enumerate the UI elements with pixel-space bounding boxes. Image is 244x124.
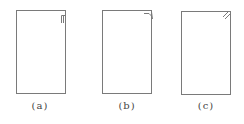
panel-c-label: (c)	[198, 100, 214, 111]
panel-a	[17, 11, 66, 94]
panel-b-rectangle	[103, 11, 152, 94]
panel-a-rectangle	[17, 11, 66, 94]
panel-c-diagonal-strokes-icon	[223, 12, 230, 19]
panel-a-label: (a)	[32, 100, 49, 111]
panel-c	[182, 12, 231, 95]
panel-a-folded-tab-icon	[62, 16, 66, 24]
panel-c-rectangle	[182, 12, 231, 95]
panel-b-label: (b)	[118, 100, 135, 111]
panel-b	[103, 11, 153, 94]
